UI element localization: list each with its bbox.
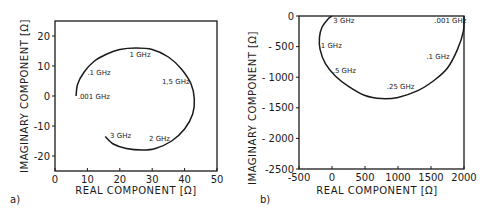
chart-a-y-tick-label: 0: [44, 91, 50, 102]
chart-a-x-tick-label: 50: [211, 174, 224, 185]
chart-b-y-tick-label: - 2000: [262, 133, 294, 144]
chart-a-y-ticks: 20100-10-20: [34, 31, 55, 162]
chart-a-x-tick-label: 20: [113, 174, 126, 185]
chart-a-x-tick-label: 10: [81, 174, 94, 185]
chart-a-x-tick-label: 30: [146, 174, 159, 185]
chart-b-frequency-label: .25 GHz: [387, 83, 415, 91]
chart-b-x-tick-label: 1000: [385, 172, 410, 183]
chart-a-y-tick-label: 10: [37, 61, 50, 72]
chart-a-frequency-label: .1 GHz: [87, 69, 111, 77]
chart-b-frequency-label: .1 GHz: [426, 53, 450, 61]
chart-b-panel-label: b): [260, 194, 270, 205]
chart-b-y-ticks: 0- 500- 1000- 1500- 2000-2500: [262, 11, 299, 175]
chart-a-panel-label: a): [10, 194, 20, 205]
chart-a-xlabel: REAL COMPONENT [Ω]: [75, 185, 196, 196]
chart-b-x-tick-label: 500: [355, 172, 374, 183]
chart-b-frequency-label: 1 GHz: [321, 42, 342, 50]
chart-b-x-tick-label: 2000: [451, 172, 476, 183]
chart-a-y-tick-label: 20: [37, 31, 50, 42]
figure: 20100-10-20 01020304050 .001 GHz.1 GHz1 …: [0, 0, 486, 215]
chart-b-frequency-label: .5 GHz: [333, 67, 357, 75]
chart-a-x-tick-label: 0: [52, 174, 58, 185]
chart-a-frequency-label: 1 GHz: [130, 51, 151, 59]
chart-a-frequency-label: 2 GHz: [149, 135, 170, 143]
chart-a-y-tick-label: -10: [34, 121, 50, 132]
chart-b-y-tick-label: - 500: [268, 41, 294, 52]
chart-a-frequency-label: .001 GHz: [78, 93, 110, 101]
chart-a-ylabel: IMAGINARY COMPONENT [Ω]: [19, 19, 30, 173]
chart-b: 0- 500- 1000- 1500- 2000-2500 -500050010…: [247, 11, 477, 206]
chart-b-frequency-label: 3 GHz: [333, 17, 354, 25]
chart-b-x-tick-label: -500: [288, 172, 311, 183]
chart-b-frame: [299, 16, 464, 169]
chart-a-y-tick-label: -20: [34, 151, 50, 162]
chart-b-xlabel: REAL COMPONENT [Ω]: [316, 185, 437, 196]
chart-b-x-tick-label: 1500: [418, 172, 443, 183]
chart-b-x-tick-label: 0: [329, 172, 335, 183]
chart-a-x-tick-label: 40: [178, 174, 191, 185]
chart-b-y-tick-label: - 1000: [262, 72, 294, 83]
chart-b-y-tick-label: - 1500: [262, 102, 294, 113]
chart-b-y-tick-label: 0: [288, 11, 294, 22]
chart-b-annotations: 3 GHz.001 GHz1 GHz.1 GHz.5 GHz.25 GHz: [321, 17, 467, 92]
chart-a-annotations: .001 GHz.1 GHz1 GHz1,5 GHz2 GHz3 GHz: [78, 51, 190, 143]
chart-a-frequency-label: 1,5 GHz: [162, 78, 190, 86]
chart-b-ylabel: IMAGINARY COMPONENT [Ω]: [247, 31, 258, 185]
chart-b-frequency-label: .001 GHz: [434, 17, 466, 25]
chart-a: 20100-10-20 01020304050 .001 GHz.1 GHz1 …: [10, 19, 223, 205]
chart-a-frequency-label: 3 GHz: [110, 132, 131, 140]
